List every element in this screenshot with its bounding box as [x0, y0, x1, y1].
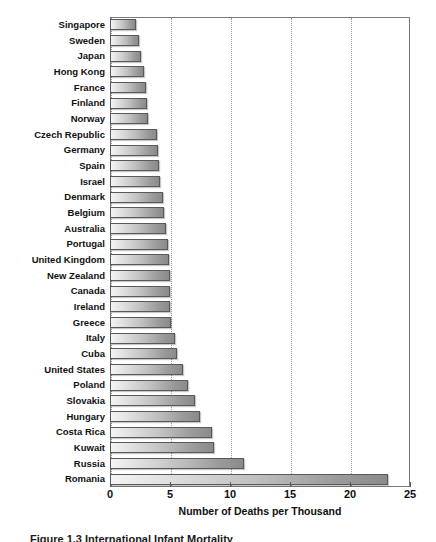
y-axis-label-canada: Canada: [0, 286, 105, 296]
bar-row: [110, 192, 410, 203]
bar: [110, 207, 164, 218]
y-axis-label-sweden: Sweden: [0, 36, 105, 46]
x-axis-ticks: 0510152025: [110, 488, 410, 504]
x-tick-mark-20: [350, 482, 351, 487]
y-axis-label-norway: Norway: [0, 114, 105, 124]
bar-row: [110, 395, 410, 406]
figure-caption: Figure 1.3 International Infant Mortalit…: [30, 533, 233, 542]
bar-row: [110, 427, 410, 438]
bar: [110, 364, 183, 375]
x-tick-label-10: 10: [224, 488, 236, 500]
bar-row: [110, 145, 410, 156]
bar: [110, 270, 170, 281]
y-axis-label-russia: Russia: [0, 459, 105, 469]
y-axis-label-spain: Spain: [0, 161, 105, 171]
y-axis-label-ireland: Ireland: [0, 302, 105, 312]
y-axis-label-hong-kong: Hong Kong: [0, 67, 105, 77]
y-axis-label-costa-rica: Costa Rica: [0, 427, 105, 437]
y-axis-label-greece: Greece: [0, 318, 105, 328]
bar: [110, 411, 200, 422]
bar-row: [110, 98, 410, 109]
x-tick-label-15: 15: [284, 488, 296, 500]
bar-row: [110, 348, 410, 359]
y-axis-category-labels: SingaporeSwedenJapanHong KongFranceFinla…: [0, 17, 105, 487]
y-axis-label-united-states: United States: [0, 365, 105, 375]
x-axis-title: Number of Deaths per Thousand: [110, 505, 410, 517]
y-axis-label-romania: Romania: [0, 474, 105, 484]
y-axis-label-portugal: Portugal: [0, 239, 105, 249]
y-axis-label-germany: Germany: [0, 145, 105, 155]
bar: [110, 442, 214, 453]
bar: [110, 160, 159, 171]
y-axis-label-poland: Poland: [0, 380, 105, 390]
y-axis-label-denmark: Denmark: [0, 192, 105, 202]
bar: [110, 474, 388, 485]
bar: [110, 427, 212, 438]
bar: [110, 254, 169, 265]
bar: [110, 192, 163, 203]
bar: [110, 176, 160, 187]
bar: [110, 98, 147, 109]
bar: [110, 51, 141, 62]
bar: [110, 145, 158, 156]
y-axis-label-belgium: Belgium: [0, 208, 105, 218]
y-axis-label-israel: Israel: [0, 177, 105, 187]
bar-row: [110, 474, 410, 485]
bar-row: [110, 239, 410, 250]
bar-row: [110, 380, 410, 391]
bar-row: [110, 270, 410, 281]
bar-row: [110, 66, 410, 77]
bar: [110, 301, 170, 312]
bar-row: [110, 207, 410, 218]
bar: [110, 458, 244, 469]
bar: [110, 82, 146, 93]
y-axis-label-slovakia: Slovakia: [0, 396, 105, 406]
y-axis-label-finland: Finland: [0, 98, 105, 108]
bar-row: [110, 223, 410, 234]
infant-mortality-bar-chart: SingaporeSwedenJapanHong KongFranceFinla…: [0, 0, 436, 542]
x-tick-mark-15: [290, 482, 291, 487]
bar-row: [110, 160, 410, 171]
bar: [110, 286, 170, 297]
bar-row: [110, 364, 410, 375]
x-tick-mark-0: [110, 482, 111, 487]
x-tick-label-25: 25: [404, 488, 416, 500]
bar: [110, 380, 188, 391]
bar-row: [110, 458, 410, 469]
bar: [110, 19, 136, 30]
y-axis-label-italy: Italy: [0, 333, 105, 343]
y-axis-label-czech-republic: Czech Republic: [0, 130, 105, 140]
bar-row: [110, 113, 410, 124]
y-axis-label-japan: Japan: [0, 51, 105, 61]
bar-row: [110, 442, 410, 453]
y-axis-label-singapore: Singapore: [0, 20, 105, 30]
y-axis-label-france: France: [0, 83, 105, 93]
bar-row: [110, 286, 410, 297]
bar-row: [110, 411, 410, 422]
y-axis-label-australia: Australia: [0, 224, 105, 234]
bar: [110, 333, 175, 344]
bar-row: [110, 333, 410, 344]
bar-row: [110, 176, 410, 187]
bar: [110, 35, 139, 46]
x-tick-mark-5: [170, 482, 171, 487]
bar-row: [110, 51, 410, 62]
bar: [110, 239, 168, 250]
bar-row: [110, 35, 410, 46]
bar: [110, 348, 177, 359]
bar-series: [110, 17, 410, 487]
x-tick-label-5: 5: [167, 488, 173, 500]
bar: [110, 395, 195, 406]
bar: [110, 317, 171, 328]
bar: [110, 66, 144, 77]
bar-row: [110, 317, 410, 328]
y-axis-label-new-zealand: New Zealand: [0, 271, 105, 281]
bar: [110, 129, 157, 140]
x-tick-label-20: 20: [344, 488, 356, 500]
x-tick-label-0: 0: [107, 488, 113, 500]
bar: [110, 113, 148, 124]
y-axis-label-cuba: Cuba: [0, 349, 105, 359]
bar-row: [110, 82, 410, 93]
y-axis-label-kuwait: Kuwait: [0, 443, 105, 453]
x-tick-mark-10: [230, 482, 231, 487]
